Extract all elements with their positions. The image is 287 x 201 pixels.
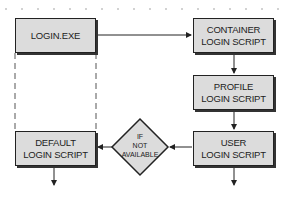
decision-line: AVAILABLE [112, 150, 168, 159]
node-container-login-script: CONTAINER LOGIN SCRIPT [193, 18, 274, 53]
node-label: LOGIN SCRIPT [23, 149, 88, 161]
decision-line: NOT [112, 141, 168, 150]
node-label: DEFAULT [23, 137, 88, 149]
node-label: CONTAINER [201, 24, 266, 36]
node-label: LOGIN SCRIPT [201, 36, 266, 48]
dotted-border [5, 8, 279, 10]
decision-label: IF NOT AVAILABLE [112, 132, 168, 159]
node-label: LOGIN SCRIPT [201, 93, 266, 105]
node-default-login-script: DEFAULT LOGIN SCRIPT [15, 131, 96, 166]
decision-line: IF [112, 132, 168, 141]
node-label: USER [201, 137, 266, 149]
node-login-exe: LOGIN.EXE [15, 18, 96, 53]
node-label: LOGIN SCRIPT [201, 149, 266, 161]
node-user-login-script: USER LOGIN SCRIPT [193, 131, 274, 166]
node-profile-login-script: PROFILE LOGIN SCRIPT [193, 75, 274, 110]
node-label: LOGIN.EXE [31, 30, 80, 42]
node-label: PROFILE [201, 81, 266, 93]
